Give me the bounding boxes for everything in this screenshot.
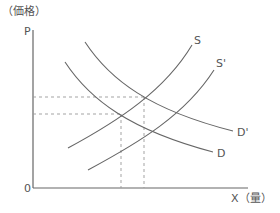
equilibrium-guides: [33, 97, 144, 188]
curve-label-d-prime: D': [237, 126, 249, 139]
x-axis-symbol: X: [231, 192, 239, 205]
origin-label: 0: [24, 182, 31, 195]
y-axis-label: （価格）: [2, 4, 46, 18]
supply-demand-diagram: （価格） P 0 X （量） S S' D D': [0, 0, 280, 213]
curve-label-s-prime: S': [216, 57, 226, 70]
x-axis-label: （量）: [239, 192, 272, 205]
supply-curve-s: [68, 45, 192, 148]
curve-label-d: D: [217, 147, 225, 160]
y-axis-symbol: P: [24, 25, 31, 38]
curve-label-s: S: [194, 34, 201, 47]
demand-curve-d: [65, 62, 213, 152]
